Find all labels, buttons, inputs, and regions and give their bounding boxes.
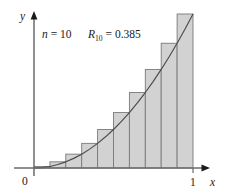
annotation-n-value: 10 <box>60 28 72 40</box>
annotation-r: R10 = 0.385 <box>87 28 141 43</box>
origin-label: 0 <box>22 175 28 187</box>
annotation-r-value: 0.385 <box>115 28 141 40</box>
annotation-r-eq: = <box>103 28 115 40</box>
riemann-rectangle <box>177 14 193 168</box>
y-axis-label: y <box>19 10 26 23</box>
annotation-group: n = 10 R10 = 0.385 <box>42 28 141 43</box>
riemann-rectangle <box>145 69 161 168</box>
riemann-rectangle <box>129 93 145 168</box>
y-axis-arrowhead-icon <box>31 11 38 20</box>
x-tick-label-one: 1 <box>190 176 196 188</box>
annotation-r-var: R <box>87 28 95 40</box>
y-axis <box>31 11 38 176</box>
x-axis-label: x <box>209 176 216 188</box>
riemann-rectangle <box>161 43 177 168</box>
annotation-n-eq: = <box>48 28 60 40</box>
riemann-rectangle <box>98 130 114 169</box>
x-axis-arrowhead-icon <box>202 165 211 172</box>
figure-canvas: y x 0 1 n = 10 R10 = 0.385 <box>0 0 225 195</box>
riemann-sum-figure: y x 0 1 n = 10 R10 = 0.385 <box>0 0 225 195</box>
annotation-n: n = 10 <box>42 28 72 40</box>
riemann-rectangle <box>82 143 98 168</box>
